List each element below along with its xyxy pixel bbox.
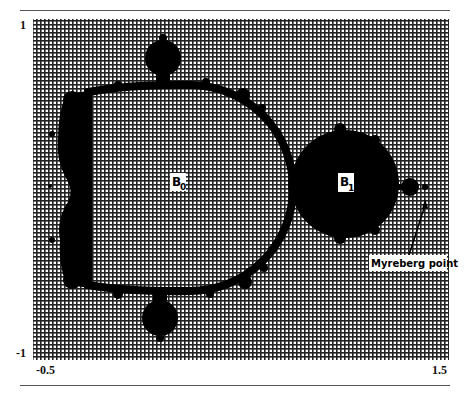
svg-text:Myreberg point: Myreberg point: [371, 258, 458, 269]
label-b1: B 1: [338, 173, 354, 193]
plot-area: B 0 B 1 Myreberg point: [0, 0, 469, 394]
svg-text:0: 0: [180, 182, 186, 192]
svg-text:1: 1: [348, 183, 354, 193]
myreberg-label: Myreberg point: [369, 255, 458, 271]
label-b0: B 0: [170, 173, 186, 192]
